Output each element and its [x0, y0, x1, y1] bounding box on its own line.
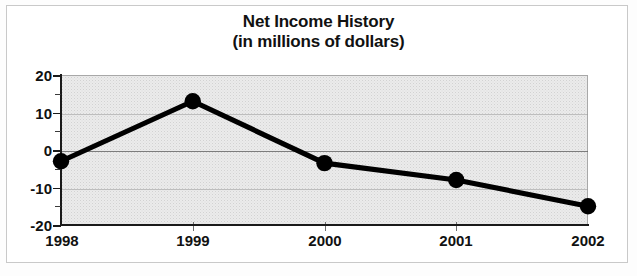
x-axis-labels: 1998 1999 2000 2001 2002 [0, 232, 637, 256]
data-point-2000 [316, 155, 332, 171]
data-point-2001 [448, 172, 464, 188]
x-axis-label-2001: 2001 [439, 232, 472, 249]
net-income-markers [53, 93, 596, 214]
data-point-2002 [580, 198, 596, 214]
data-point-1998 [53, 153, 69, 169]
x-axis-label-2000: 2000 [308, 232, 341, 249]
chart-figure: Net Income History (in millions of dolla… [0, 0, 637, 276]
x-axis-label-2002: 2002 [571, 232, 604, 249]
x-axis-label-1999: 1999 [176, 232, 209, 249]
net-income-line [61, 101, 588, 206]
data-point-1999 [185, 93, 201, 109]
x-axis-label-1998: 1998 [45, 232, 78, 249]
